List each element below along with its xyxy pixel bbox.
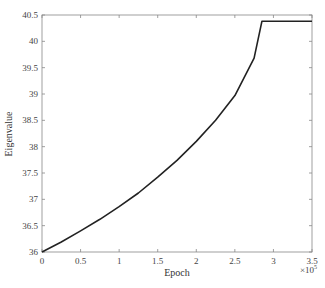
axes: 00.511.522.533.53636.53737.53838.53939.5… <box>22 10 318 266</box>
x-tick-label: 1 <box>117 256 122 266</box>
y-tick-label: 39.5 <box>22 63 38 73</box>
y-tick-label: 37.5 <box>22 168 38 178</box>
x-tick-label: 1.5 <box>152 256 164 266</box>
y-tick-label: 39 <box>29 89 39 99</box>
x-tick-label: 2.5 <box>229 256 241 266</box>
x-tick-label: 0.5 <box>75 256 87 266</box>
x-tick-label: 0 <box>40 256 45 266</box>
y-tick-label: 38.5 <box>22 115 38 125</box>
y-tick-label: 38 <box>29 142 39 152</box>
y-tick-label: 36.5 <box>22 221 38 231</box>
y-tick-label: 37 <box>29 194 39 204</box>
y-axis-label: Eigenvalue <box>3 111 14 157</box>
y-tick-label: 36 <box>29 247 39 257</box>
x-axis-label: Epoch <box>164 267 190 278</box>
series-line <box>42 21 312 252</box>
chart: 00.511.522.533.53636.53737.53838.53939.5… <box>0 0 325 288</box>
plot-frame <box>42 15 312 252</box>
y-tick-label: 40.5 <box>22 10 38 20</box>
x-multiplier: ×105 <box>300 264 317 275</box>
x-tick-label: 2 <box>194 256 199 266</box>
y-tick-label: 40 <box>29 36 39 46</box>
x-tick-label: 3 <box>271 256 276 266</box>
